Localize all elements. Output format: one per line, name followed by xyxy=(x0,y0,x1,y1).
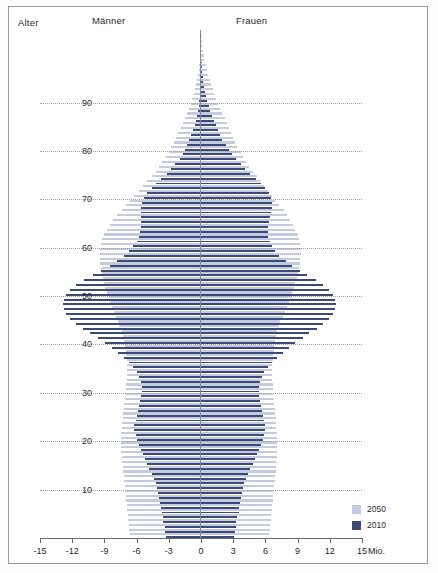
bar-2010-women-age-64 xyxy=(201,226,268,228)
bar-2010-women-age-77 xyxy=(201,163,241,165)
bar-2010-men-age-62 xyxy=(139,236,201,238)
y-axis-tick-50: 50 xyxy=(66,291,92,301)
bar-2010-men-age-63 xyxy=(140,231,201,233)
y-axis-tick-60: 60 xyxy=(66,243,92,253)
x-axis-tick-label-0: 0 xyxy=(198,546,203,556)
bar-2010-men-age-37 xyxy=(124,357,201,359)
bar-2010-women-age-58 xyxy=(201,255,279,257)
bar-2010-men-age-33 xyxy=(139,376,201,378)
bar-2010-women-age-45 xyxy=(201,318,329,320)
x-axis-tickmark--15 xyxy=(40,538,41,543)
x-axis-tick-label-15: 15 xyxy=(357,546,367,556)
bar-2010-women-age-97 xyxy=(201,66,202,68)
bar-2010-men-age-3 xyxy=(163,521,201,523)
bar-2010-men-age-2 xyxy=(165,526,201,528)
x-axis-tick-label-6: 6 xyxy=(263,546,268,556)
bar-2050-women-age-101 xyxy=(201,45,202,47)
bar-2010-men-age-34 xyxy=(137,371,201,373)
bar-2010-men-age-38 xyxy=(118,352,201,354)
bar-2010-men-age-76 xyxy=(171,168,201,170)
y-axis-tick-90: 90 xyxy=(66,98,92,108)
bar-2010-women-age-43 xyxy=(201,328,317,330)
bar-2010-women-age-86 xyxy=(201,120,214,122)
bar-2010-men-age-22 xyxy=(134,429,201,431)
legend-swatch-2050 xyxy=(352,505,361,514)
legend-label-2010: 2010 xyxy=(367,520,386,530)
bar-2010-women-age-72 xyxy=(201,187,265,189)
bar-2010-men-age-56 xyxy=(110,265,201,267)
bar-2010-women-age-37 xyxy=(201,357,277,359)
bar-2050-women-age-102 xyxy=(201,40,202,42)
bar-2010-men-age-74 xyxy=(161,178,201,180)
axis-label-age: Alter xyxy=(18,17,39,28)
bar-2010-men-age-52 xyxy=(76,284,201,286)
bar-2010-women-age-55 xyxy=(201,270,300,272)
bar-2010-women-age-95 xyxy=(201,76,203,78)
bar-2010-women-age-52 xyxy=(201,284,323,286)
x-axis-tickmark-6 xyxy=(265,538,266,543)
bar-2010-women-age-53 xyxy=(201,279,316,281)
x-axis-tickmark-3 xyxy=(233,538,234,543)
bar-2010-women-age-74 xyxy=(201,178,256,180)
x-axis-tickmark--9 xyxy=(104,538,105,543)
x-axis-tick-label-9: 9 xyxy=(295,546,300,556)
bar-2010-women-age-28 xyxy=(201,400,260,402)
bar-2010-women-age-18 xyxy=(201,449,259,451)
bar-2010-women-age-83 xyxy=(201,134,220,136)
bar-2010-women-age-39 xyxy=(201,347,289,349)
bar-2050-women-age-103 xyxy=(201,35,202,37)
bar-2010-women-age-94 xyxy=(201,81,203,83)
bar-2010-women-age-78 xyxy=(201,158,236,160)
bar-2010-men-age-21 xyxy=(136,434,201,436)
x-axis-tickmark-9 xyxy=(298,538,299,543)
bar-2010-men-age-16 xyxy=(145,458,201,460)
bar-2010-men-age-5 xyxy=(162,512,201,514)
bar-2010-women-age-17 xyxy=(201,453,257,455)
bar-2010-women-age-49 xyxy=(201,299,335,301)
bar-2010-men-age-47 xyxy=(64,308,201,310)
bar-2010-women-age-8 xyxy=(201,497,241,499)
bar-2010-men-age-14 xyxy=(149,468,201,470)
legend-label-2050: 2050 xyxy=(367,504,386,514)
bar-2010-women-age-91 xyxy=(201,95,206,97)
bar-2010-women-age-11 xyxy=(201,482,244,484)
bar-2010-women-age-61 xyxy=(201,241,270,243)
bar-2010-women-age-67 xyxy=(201,212,271,214)
bar-2010-women-age-34 xyxy=(201,371,264,373)
bar-2010-women-age-96 xyxy=(201,71,202,73)
column-label-women: Frauen xyxy=(236,15,267,26)
bar-2010-men-age-57 xyxy=(117,260,201,262)
bar-2010-men-age-9 xyxy=(158,492,201,494)
y-axis-tick-40: 40 xyxy=(66,339,92,349)
bar-2010-women-age-54 xyxy=(201,274,307,276)
y-axis-tick-80: 80 xyxy=(66,146,92,156)
legend-item-2010: 2010 xyxy=(352,520,386,530)
bar-2010-women-age-51 xyxy=(201,289,329,291)
bar-2010-women-age-19 xyxy=(201,444,261,446)
x-axis-tickmark-15 xyxy=(362,538,363,543)
y-axis-tick-70: 70 xyxy=(66,194,92,204)
x-axis-tick-label-12: 12 xyxy=(325,546,335,556)
bar-2010-women-age-89 xyxy=(201,105,209,107)
bar-2010-men-age-32 xyxy=(141,381,201,383)
bar-2010-women-age-44 xyxy=(201,323,323,325)
y-axis-tick-20: 20 xyxy=(66,436,92,446)
bar-2010-women-age-32 xyxy=(201,381,260,383)
bar-2010-men-age-42 xyxy=(90,332,201,334)
bar-2010-women-age-14 xyxy=(201,468,250,470)
bar-2010-women-age-56 xyxy=(201,265,292,267)
bar-2010-men-age-44 xyxy=(76,323,201,325)
bar-2010-men-age-25 xyxy=(137,415,201,417)
bar-2010-women-age-38 xyxy=(201,352,283,354)
bar-2010-men-age-8 xyxy=(159,497,201,499)
bar-2010-women-age-24 xyxy=(201,420,264,422)
bar-2010-women-age-33 xyxy=(201,376,262,378)
x-axis-tickmark--12 xyxy=(72,538,73,543)
bar-2010-men-age-31 xyxy=(142,386,201,388)
x-axis-tickmark--6 xyxy=(137,538,138,543)
bar-2010-women-age-15 xyxy=(201,463,253,465)
bar-2010-women-age-12 xyxy=(201,478,246,480)
bar-2010-women-age-84 xyxy=(201,129,218,131)
bar-2010-women-age-85 xyxy=(201,124,216,126)
bar-2010-women-age-41 xyxy=(201,337,303,339)
